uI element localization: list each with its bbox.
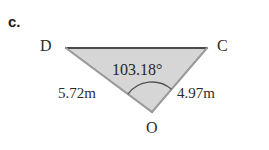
vertex-label-C: C — [217, 38, 228, 54]
vertex-label-O: O — [146, 120, 158, 136]
angle-measure-label: 103.18° — [112, 62, 162, 78]
triangle-shape — [66, 48, 207, 112]
side-length-label-OC: 4.97m — [177, 86, 215, 101]
figure-container: c. D C O 103.18° 5.72m 4.97m — [0, 0, 269, 150]
side-length-label-DO: 5.72m — [58, 86, 96, 101]
part-label: c. — [8, 14, 21, 29]
vertex-label-D: D — [40, 38, 52, 54]
